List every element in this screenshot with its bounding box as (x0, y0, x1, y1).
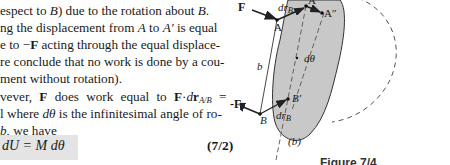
var: A′ (163, 20, 174, 35)
text-line-2: ng the displacement from A to A′ is equa… (0, 19, 218, 36)
text: to (146, 20, 163, 35)
text: dr (276, 109, 286, 121)
text: ng the displacement from (0, 20, 138, 35)
equation: dU = M dθ (2, 138, 65, 154)
var: A (138, 20, 146, 35)
label-drB-top: drB (278, 1, 293, 15)
text-line-4: re conclude that no work is done by a co… (0, 53, 224, 70)
var: B (198, 3, 206, 18)
text-line-5: ment without rotation). (0, 70, 122, 87)
equation-number: (7/2) (207, 138, 233, 154)
subfigure-label: (b) (288, 135, 301, 147)
text: l where (0, 106, 42, 121)
subscript: B (288, 5, 293, 15)
var: dθ (42, 106, 55, 121)
text: does work equal to (47, 89, 174, 104)
vector: F (174, 89, 182, 104)
subscript: B (286, 113, 291, 123)
text: espect to (0, 3, 50, 18)
label-B: B (260, 114, 267, 126)
label-drAB-sub: A/B (350, 0, 362, 2)
var: B (50, 3, 58, 18)
label-B-prime: B′ (292, 92, 301, 104)
figure-diagram (240, 0, 450, 165)
label-A: A (274, 21, 282, 33)
figure-caption: Figure 7/4 (320, 156, 377, 165)
text: = (212, 89, 227, 104)
vector: F (30, 37, 38, 52)
label-F: F (238, 0, 245, 15)
text: dr (278, 1, 288, 13)
label-drB-bottom: drB (276, 109, 291, 123)
subscript: A/B (199, 95, 212, 105)
text: e to − (0, 37, 30, 52)
text: . (206, 3, 209, 18)
text: re conclude that no work is done by a co… (0, 54, 224, 69)
figure: F -F A A′ A″ B B′ drB drB b dθ A/B (b) F… (240, 0, 450, 165)
text: is equal (174, 20, 218, 35)
label-A-prime: A′ (308, 0, 318, 6)
text-line-3: e to −F acting through the equal displac… (0, 36, 220, 53)
text-line-1: espect to B) due to the rotation about B… (0, 2, 209, 19)
label-minus-F: -F (230, 97, 241, 112)
label-b: b (257, 60, 263, 72)
text: ) due to the rotation about (58, 3, 198, 18)
text: ment without rotation). (0, 71, 122, 86)
text: is the infinitesimal angle of ro- (56, 106, 222, 121)
label-dtheta: dθ (304, 52, 315, 64)
text-line-7: l where dθ is the infinitesimal angle of… (0, 105, 222, 122)
text: acting through the equal displace- (38, 37, 220, 52)
label-A-double-prime: A″ (324, 7, 337, 19)
text: vever, (0, 89, 39, 104)
